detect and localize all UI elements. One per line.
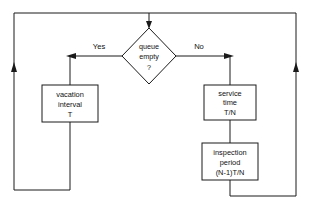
flowchart-svg: queue empty ? vacation interval T servic…	[0, 0, 310, 208]
vacation-label-line3: T	[68, 110, 73, 119]
inspection-label-line2: period	[220, 158, 241, 167]
edge-label-no: No	[194, 42, 204, 51]
decision-label-line1: queue	[139, 42, 159, 51]
edge-label-yes: Yes	[93, 42, 106, 51]
vacation-label-line1: vacation	[56, 90, 84, 99]
flowchart-canvas: queue empty ? vacation interval T servic…	[0, 0, 310, 208]
arrowhead-no-right-icon	[224, 53, 234, 59]
arrowhead-yes-left-icon	[66, 53, 76, 59]
decision-label-line2: empty	[139, 52, 159, 61]
service-label-line3: T/N	[224, 108, 236, 117]
service-label-line1: service	[218, 89, 241, 98]
inspection-label-line1: inspection	[213, 148, 246, 157]
arrowhead-right-rail-up-icon	[293, 62, 299, 72]
decision-label-line3: ?	[147, 63, 151, 72]
inspection-label-line3: (N-1)T/N	[216, 168, 245, 177]
service-label-line2: time	[223, 98, 237, 107]
vacation-label-line2: interval	[58, 100, 82, 109]
arrowhead-left-rail-up-icon	[11, 62, 17, 72]
